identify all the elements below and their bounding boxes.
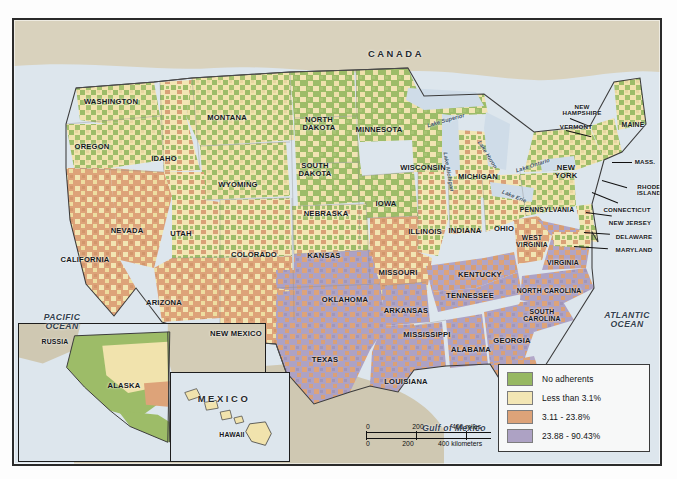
scale-bar-km-ticks: 0 200 400 kilometers — [366, 439, 491, 449]
map-legend: No adherents Less than 3.1% 3.11 - 23.8%… — [498, 364, 650, 452]
scale-bar-graphic — [366, 432, 491, 439]
scale-bar-miles-ticks: 0 200 400 miles — [366, 423, 491, 432]
map-frame: RUSSIA ALASKA CANADA HAWAII CANADA MEXIC… — [12, 18, 662, 466]
legend-swatch-high — [507, 429, 533, 443]
legend-item-medium: 3.11 - 23.8% — [507, 410, 641, 424]
scale-km-tick-0: 0 — [366, 440, 370, 447]
legend-swatch-no-adherents — [507, 372, 533, 386]
legend-label-less-than: Less than 3.1% — [542, 393, 601, 403]
screenshot-root: RUSSIA ALASKA CANADA HAWAII CANADA MEXIC… — [0, 0, 677, 479]
scale-km-tick-400: 400 kilometers — [438, 440, 482, 447]
legend-swatch-medium — [507, 410, 533, 424]
legend-label-no-adherents: No adherents — [542, 374, 593, 384]
leader-line-massachusetts — [612, 162, 632, 163]
scale-bar: 0 200 400 miles 0 200 400 kilometers — [366, 423, 491, 449]
legend-label-high: 23.88 - 90.43% — [542, 431, 600, 441]
hawaii-inset: HAWAII — [170, 372, 290, 462]
scale-miles-tick-400: 400 miles — [452, 423, 481, 430]
scale-miles-tick-0: 0 — [366, 423, 370, 430]
legend-swatch-less-than — [507, 391, 533, 405]
legend-item-less-than: Less than 3.1% — [507, 391, 641, 405]
scale-miles-tick-200: 200 — [412, 423, 423, 430]
scale-km-tick-200: 200 — [402, 440, 413, 447]
legend-item-no-adherents: No adherents — [507, 372, 641, 386]
legend-item-high: 23.88 - 90.43% — [507, 429, 641, 443]
legend-label-medium: 3.11 - 23.8% — [542, 412, 590, 422]
